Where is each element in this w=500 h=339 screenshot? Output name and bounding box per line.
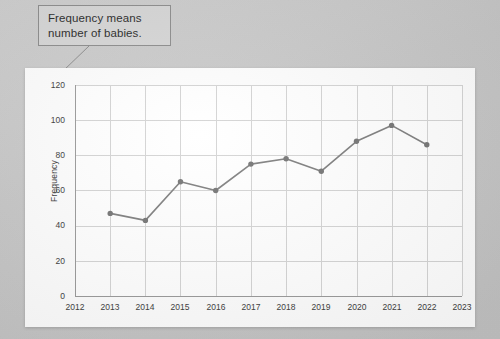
annotation-line-1: Frequency means xyxy=(48,11,162,26)
data-point-2017 xyxy=(248,161,253,166)
screenshot-root: Frequency means number of babies. Freque… xyxy=(0,0,500,339)
data-point-2019 xyxy=(319,169,324,174)
data-point-2015 xyxy=(178,179,183,184)
data-point-2022 xyxy=(424,142,429,147)
data-point-2020 xyxy=(354,139,359,144)
data-point-2021 xyxy=(389,123,394,128)
data-point-2016 xyxy=(213,188,218,193)
chart-plot xyxy=(25,68,475,327)
data-point-2018 xyxy=(283,156,288,161)
chart-card: Frequency 120 100 80 60 40 20 0 2012 201… xyxy=(25,68,475,327)
annotation-callout: Frequency means number of babies. xyxy=(38,5,171,46)
data-point-2014 xyxy=(143,218,148,223)
chart-area: Frequency 120 100 80 60 40 20 0 2012 201… xyxy=(25,68,475,327)
annotation-line-2: number of babies. xyxy=(48,26,162,41)
data-point-2013 xyxy=(108,211,113,216)
